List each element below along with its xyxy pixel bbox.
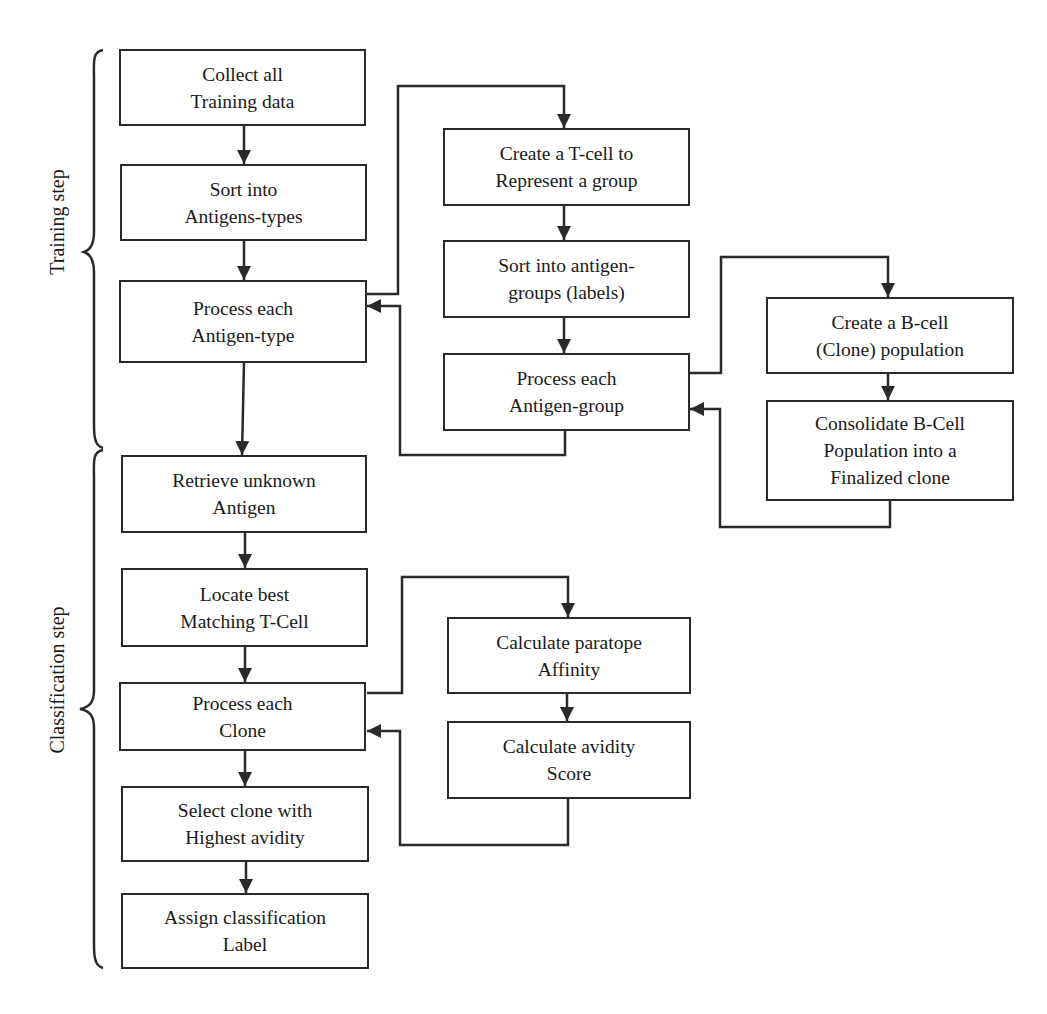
node-locate-best-tcell: Locate best Matching T-Cell bbox=[121, 568, 368, 647]
node-text: Process each bbox=[516, 365, 616, 392]
node-text: Assign classification bbox=[164, 904, 326, 931]
node-select-highest-avidity: Select clone with Highest avidity bbox=[121, 786, 369, 862]
node-consolidate-bcell: Consolidate B-Cell Population into a Fin… bbox=[766, 400, 1014, 501]
node-process-antigen-group: Process each Antigen-group bbox=[443, 353, 690, 431]
node-sort-antigen-types: Sort into Antigens-types bbox=[120, 164, 367, 241]
node-text: Retrieve unknown bbox=[172, 467, 316, 494]
node-text: Antigen bbox=[213, 494, 276, 521]
node-process-each-clone: Process each Clone bbox=[119, 682, 366, 751]
classification-step-label: Classification step bbox=[46, 606, 69, 753]
node-text: Antigen-group bbox=[509, 392, 624, 419]
node-collect-training-data: Collect all Training data bbox=[119, 49, 366, 126]
node-text: Calculate paratope bbox=[496, 629, 642, 656]
node-text: Sort into antigen- bbox=[498, 252, 634, 279]
node-text: Antigen-type bbox=[192, 322, 295, 349]
node-process-antigen-type: Process each Antigen-type bbox=[119, 280, 367, 363]
node-text: Calculate avidity bbox=[503, 733, 636, 760]
node-create-bcell-population: Create a B-cell (Clone) population bbox=[766, 297, 1014, 374]
node-text: Score bbox=[547, 760, 591, 787]
node-text: Matching T-Cell bbox=[180, 608, 308, 635]
node-text: (Clone) population bbox=[816, 336, 964, 363]
node-text: Sort into bbox=[210, 176, 278, 203]
node-calculate-avidity-score: Calculate avidity Score bbox=[447, 721, 691, 799]
node-text: Create a T-cell to bbox=[500, 140, 634, 167]
training-brace bbox=[84, 50, 103, 448]
node-text: Locate best bbox=[200, 581, 289, 608]
node-text: Affinity bbox=[538, 656, 600, 683]
node-text: Process each bbox=[192, 690, 292, 717]
node-text: Antigens-types bbox=[184, 203, 302, 230]
node-text: Population into a bbox=[823, 437, 956, 464]
node-text: Collect all bbox=[202, 61, 283, 88]
training-step-label: Training step bbox=[46, 169, 69, 274]
node-text: Consolidate B-Cell bbox=[815, 410, 965, 437]
node-sort-antigen-groups: Sort into antigen- groups (labels) bbox=[443, 240, 690, 318]
node-assign-label: Assign classification Label bbox=[121, 893, 369, 969]
node-retrieve-unknown-antigen: Retrieve unknown Antigen bbox=[121, 455, 367, 533]
node-text: Select clone with bbox=[178, 797, 312, 824]
node-text: Finalized clone bbox=[830, 464, 950, 491]
node-text: Highest avidity bbox=[185, 824, 305, 851]
node-text: Represent a group bbox=[496, 167, 638, 194]
classification-brace bbox=[80, 450, 103, 968]
node-text: Process each bbox=[193, 295, 293, 322]
node-calculate-paratope-affinity: Calculate paratope Affinity bbox=[447, 617, 691, 694]
node-text: Training data bbox=[191, 88, 295, 115]
node-text: Clone bbox=[219, 717, 266, 744]
node-text: Create a B-cell bbox=[832, 309, 949, 336]
node-create-tcell: Create a T-cell to Represent a group bbox=[443, 128, 690, 206]
node-text: Label bbox=[223, 931, 267, 958]
node-text: groups (labels) bbox=[508, 279, 624, 306]
